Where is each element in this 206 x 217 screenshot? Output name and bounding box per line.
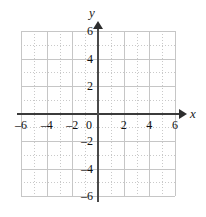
- y-tick-label: –6: [81, 190, 93, 202]
- y-tick-label: 6: [87, 25, 93, 37]
- origin-tick-label: 0: [86, 119, 92, 131]
- y-axis-arrow-icon: [93, 21, 103, 29]
- y-tick-label: 2: [87, 80, 93, 92]
- y-tick-label: –4: [81, 163, 93, 175]
- x-tick-label: –2: [66, 119, 78, 131]
- y-tick-label: –2: [81, 135, 93, 147]
- x-tick-label: –4: [41, 119, 53, 131]
- coordinate-plane: x y 0 –6–4–2246642–2–4–6: [0, 0, 206, 217]
- x-tick-label: 4: [146, 119, 152, 131]
- x-axis-arrow-icon: [179, 109, 187, 119]
- y-axis-line: [97, 27, 99, 202]
- x-axis-label: x: [190, 107, 196, 120]
- x-tick-label: –6: [15, 119, 27, 131]
- x-axis-line: [17, 113, 181, 115]
- x-tick-label: 2: [121, 119, 127, 131]
- y-tick-label: 4: [87, 53, 93, 65]
- y-axis-label: y: [89, 6, 95, 19]
- x-tick-label: 6: [172, 119, 178, 131]
